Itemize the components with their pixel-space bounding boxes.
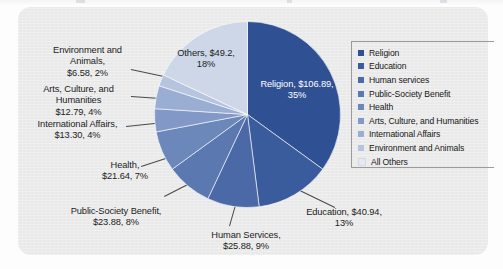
legend-swatch-icon <box>358 158 366 166</box>
slice-label-human-services: Human Services, $25.88, 9% <box>198 230 294 253</box>
legend-swatch-icon <box>358 118 364 124</box>
slice-label-international-affairs: International Affairs, $13.30, 4% <box>27 119 128 142</box>
legend-item[interactable]: International Affairs <box>358 128 494 142</box>
slice-label-arts-culture-humanities: Arts, Culture, and Humanities $12.79, 4% <box>29 84 128 118</box>
legend-swatch-icon <box>358 63 364 69</box>
legend-item[interactable]: Arts, Culture, and Humanities <box>358 114 494 128</box>
clipped-text-sliver <box>0 0 503 6</box>
legend-item-label: Education <box>369 61 406 71</box>
legend-item[interactable]: Religion <box>358 46 494 60</box>
legend-item[interactable]: Education <box>358 60 494 74</box>
legend-item[interactable]: Environment and Animals <box>358 141 494 155</box>
slice-label-environment-and-animals: Environment and Animals, $6.58, 2% <box>38 45 137 79</box>
legend-item-label: Health <box>369 102 393 112</box>
legend-swatch-icon <box>358 77 364 83</box>
legend-item-label: Arts, Culture, and Humanities <box>369 116 478 126</box>
slice-label-religion: Religion, $106.89, 35% <box>249 79 345 102</box>
slice-label-education: Education, $40.94, 13% <box>296 207 392 230</box>
legend-item-label: All Others <box>371 157 408 167</box>
legend-swatch-icon <box>358 104 364 110</box>
legend-item-label: Public-Society Benefit <box>369 89 450 99</box>
figure-canvas: Others, $49.2, 18% Religion, $106.89, 35… <box>0 0 503 269</box>
legend-swatch-icon <box>358 131 364 137</box>
slice-label-others: Others, $49.2, 18% <box>166 48 246 71</box>
legend-item-label: Religion <box>369 48 399 58</box>
legend-item-label: Environment and Animals <box>369 143 464 153</box>
legend-swatch-icon <box>358 50 364 56</box>
chart-legend: ReligionEducationHuman servicesPublic-So… <box>351 41 494 168</box>
legend-item[interactable]: All Others <box>358 155 494 169</box>
legend-swatch-icon <box>358 91 364 97</box>
slice-label-health: Health, $21.64, 7% <box>90 160 160 183</box>
legend-item[interactable]: Health <box>358 100 494 114</box>
legend-item-label: Human services <box>369 75 429 85</box>
slice-label-public-society-benefit: Public-Society Benefit, $23.88, 8% <box>53 206 179 229</box>
legend-item-label: International Affairs <box>369 129 440 139</box>
legend-item[interactable]: Public-Society Benefit <box>358 87 494 101</box>
legend-swatch-icon <box>358 145 364 151</box>
legend-item[interactable]: Human services <box>358 73 494 87</box>
